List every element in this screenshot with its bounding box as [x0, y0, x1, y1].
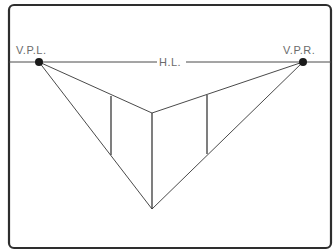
vpl-to-bottom-line — [39, 62, 152, 209]
horizon-label: H.L. — [159, 56, 181, 68]
perspective-diagram: V.P.L. V.P.R. H.L. — [0, 0, 335, 252]
diagram-svg: V.P.L. V.P.R. H.L. — [0, 0, 335, 252]
vanishing-point-right — [299, 58, 307, 66]
vpr-label: V.P.R. — [283, 44, 315, 56]
vpr-to-bottom-line — [152, 62, 303, 209]
frame-border — [9, 5, 331, 248]
vpl-to-top-line — [39, 62, 152, 113]
vanishing-point-left — [35, 58, 43, 66]
vpr-to-top-line — [152, 62, 303, 113]
vpl-label: V.P.L. — [16, 44, 47, 56]
